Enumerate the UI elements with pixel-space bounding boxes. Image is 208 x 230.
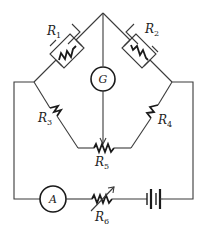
circuit-diagram: R1 R2 G R3 R4 R5 A [0,0,208,230]
label-r6: R6 [94,210,109,226]
wire-outer-left [14,82,40,199]
battery-icon [147,189,163,209]
galvanometer-label: G [99,73,108,86]
label-r4: R4 [157,113,172,129]
label-r2: R2 [144,22,159,38]
variable-resistor-r6 [91,187,147,211]
label-r5: R5 [94,155,109,171]
wire-outer-right [163,82,193,199]
resistor-r5 [78,144,131,152]
label-r1: R1 [46,24,61,40]
label-r3: R3 [37,111,52,127]
ammeter-label: A [48,193,57,206]
circuit-svg: R1 R2 G R3 R4 R5 A [0,0,208,230]
